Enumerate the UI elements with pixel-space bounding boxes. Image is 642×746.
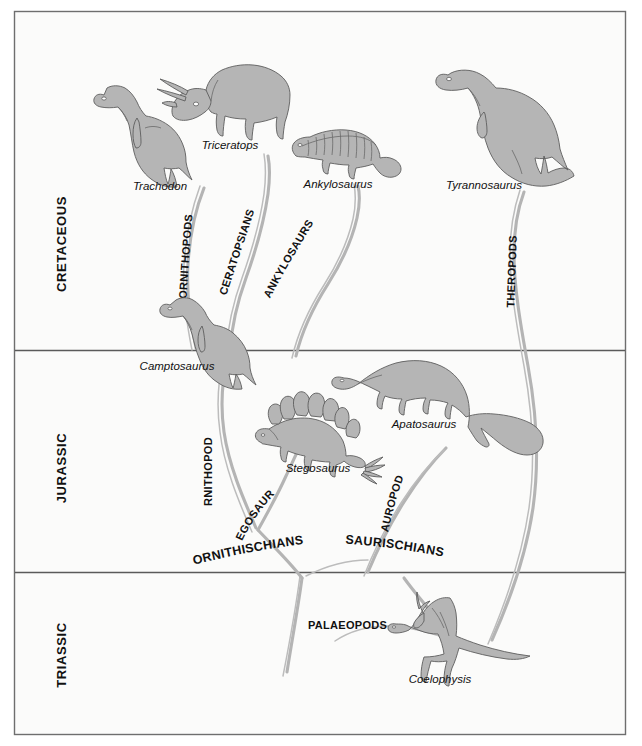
label-ankylosaurus: Ankylosaurus	[302, 178, 372, 190]
label-apatosaurus: Apatosaurus	[391, 418, 457, 430]
period-label-jurassic: JURASSIC	[54, 433, 69, 504]
label-triceratops: Triceratops	[202, 139, 259, 151]
figure-canvas: CRETACEOUS JURASSIC TRIASSIC Trachodon T…	[0, 0, 642, 746]
label-trachodon: Trachodon	[133, 180, 187, 192]
group-label-palaeopods: PALAEOPODS	[308, 619, 387, 631]
dinosaur-evolution-diagram: CRETACEOUS JURASSIC TRIASSIC Trachodon T…	[0, 0, 642, 746]
label-tyrannosaurus: Tyrannosaurus	[446, 179, 522, 191]
label-coelophysis: Coelophysis	[409, 673, 472, 685]
period-label-triassic: TRIASSIC	[54, 622, 69, 687]
label-stegosaurus: Stegosaurus	[286, 462, 351, 474]
label-camptosaurus: Camptosaurus	[140, 360, 215, 372]
period-label-cretaceous: CRETACEOUS	[54, 196, 69, 292]
